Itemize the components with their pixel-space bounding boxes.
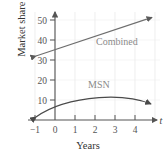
y-axis-ticks <box>50 20 55 100</box>
x-tick-label-0: 0 <box>53 125 58 135</box>
y-axis-title: Market share (%) <box>11 0 25 74</box>
series-label-combined: Combined <box>96 36 138 47</box>
y-tick-label-10: 10 <box>38 96 48 106</box>
y-tick-label-50: 50 <box>38 16 48 26</box>
x-axis-symbol: t <box>160 115 163 126</box>
y-tick-label-40: 40 <box>38 36 48 46</box>
x-tick-label-1: 1 <box>73 125 78 135</box>
x-axis-title: Years <box>76 140 99 151</box>
grid-vertical <box>35 12 155 120</box>
chart-figure: Market share (%) <box>0 0 167 155</box>
x-tick-label-neg1: −1 <box>30 125 40 135</box>
series-label-msn: MSN <box>88 79 110 90</box>
x-tick-label-2: 2 <box>93 125 98 135</box>
x-tick-label-3: 3 <box>113 125 118 135</box>
x-tick-label-4: 4 <box>133 125 138 135</box>
y-tick-label-20: 20 <box>38 76 48 86</box>
y-axis-title-text: Market share (%) <box>16 0 27 57</box>
x-axis-ticks <box>35 115 135 120</box>
y-tick-label-30: 30 <box>38 56 48 66</box>
